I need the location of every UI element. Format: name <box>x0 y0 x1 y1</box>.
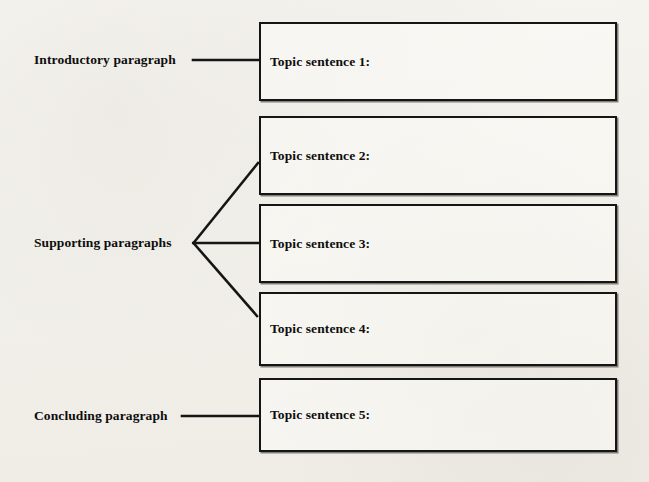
stage-label-concluding-paragraph[interactable]: Concluding paragraph <box>34 408 168 424</box>
topic-sentence-box-5[interactable]: Topic sentence 5: <box>259 378 617 452</box>
topic-sentence-box-2-label: Topic sentence 2: <box>270 147 370 163</box>
topic-sentence-box-4-label: Topic sentence 4: <box>270 321 370 337</box>
topic-sentence-box-1[interactable]: Topic sentence 1: <box>259 22 617 101</box>
topic-sentence-box-3-label: Topic sentence 3: <box>270 235 370 251</box>
connector-supporting-lower-line <box>194 243 258 316</box>
stage-label-introductory-paragraph[interactable]: Introductory paragraph <box>34 52 176 68</box>
connector-supporting-upper-line <box>194 163 259 243</box>
topic-sentence-box-4[interactable]: Topic sentence 4: <box>259 292 617 366</box>
topic-sentence-box-2[interactable]: Topic sentence 2: <box>259 116 617 195</box>
diagram-canvas: Topic sentence 1: Topic sentence 2: Topi… <box>0 0 649 482</box>
stage-label-supporting-paragraphs[interactable]: Supporting paragraphs <box>34 235 172 251</box>
topic-sentence-box-5-label: Topic sentence 5: <box>270 407 370 423</box>
topic-sentence-box-3[interactable]: Topic sentence 3: <box>259 204 617 283</box>
topic-sentence-box-1-label: Topic sentence 1: <box>270 53 370 69</box>
